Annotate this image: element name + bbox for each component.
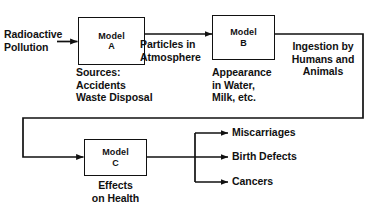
box-model-c-line1: Model (102, 147, 129, 157)
box-model-c[interactable]: Model C (84, 139, 147, 176)
box-model-b-line2: B (240, 38, 247, 48)
outcome-label-miscarriages: Miscarriages (232, 126, 296, 139)
label-appearance-in-water: Appearance in Water, Milk, etc. (212, 66, 292, 104)
box-model-b-line1: Model (230, 27, 257, 37)
label-particles-in-atmosphere: Particles in Atmosphere (140, 38, 220, 63)
outcome-label-cancers: Cancers (232, 175, 273, 188)
outcome-label-birth-defects: Birth Defects (232, 150, 297, 163)
label-sources: Sources: Accidents Waste Disposal (76, 66, 191, 104)
label-ingestion-by-humans-and-animals: Ingestion by Humans and Animals (282, 40, 364, 78)
box-model-a-line1: Model (98, 31, 125, 41)
label-effects-on-health: Effects on Health (70, 179, 161, 204)
label-radioactive-pollution: Radioactive Pollution (4, 28, 80, 53)
diagram-canvas: Model A Model B Model C Radioactive Poll… (0, 0, 375, 211)
box-model-a[interactable]: Model A (78, 17, 145, 65)
box-model-c-line2: C (112, 158, 119, 168)
box-model-a-line2: A (108, 41, 115, 51)
box-model-b[interactable]: Model B (212, 15, 275, 60)
